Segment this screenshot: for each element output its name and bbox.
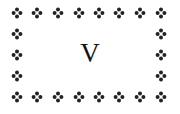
floret-ornament-icon <box>73 91 85 103</box>
floret-ornament-icon <box>93 91 105 103</box>
floret-ornament-icon <box>155 70 167 82</box>
floret-ornament-icon <box>155 7 167 19</box>
center-letter: V <box>0 38 180 68</box>
floret-ornament-icon <box>52 7 64 19</box>
floret-ornament-icon <box>31 7 43 19</box>
floret-ornament-icon <box>73 7 85 19</box>
floret-ornament-icon <box>113 91 125 103</box>
floret-ornament-icon <box>134 7 146 19</box>
floret-ornament-icon <box>134 91 146 103</box>
floret-ornament-icon <box>113 7 125 19</box>
floret-ornament-icon <box>11 7 23 19</box>
floret-ornament-icon <box>93 7 105 19</box>
floret-ornament-icon <box>11 70 23 82</box>
floret-ornament-icon <box>11 91 23 103</box>
floret-ornament-icon <box>31 91 43 103</box>
floret-ornament-icon <box>155 91 167 103</box>
floret-ornament-icon <box>52 91 64 103</box>
